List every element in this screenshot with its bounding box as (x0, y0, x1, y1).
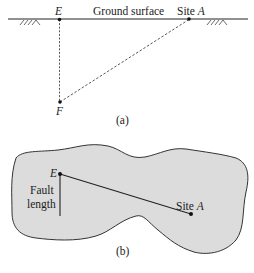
label-point-e: E (55, 6, 62, 18)
site-letter: A (197, 200, 204, 212)
diagram-canvas (0, 0, 254, 273)
label-fault-line1: Fault (30, 185, 54, 197)
caption-a: (a) (116, 115, 129, 127)
site-a-dot (187, 17, 191, 21)
label-point-e: E (50, 168, 57, 180)
hypocentral-distance-line (60, 20, 189, 103)
site-letter: A (198, 5, 205, 17)
site-prefix: Site (177, 5, 198, 17)
label-ground-surface: Ground surface (93, 6, 164, 18)
point-e-dot (58, 18, 62, 22)
ground-hatch-left-icon (20, 20, 40, 25)
label-site-a: Site A (176, 201, 204, 213)
label-fault-line2: length (27, 199, 56, 211)
label-point-f: F (56, 106, 63, 118)
label-site-a: Site A (177, 6, 205, 18)
ground-hatch-right-icon (207, 20, 227, 25)
site-a-dot (189, 212, 193, 216)
site-prefix: Site (176, 200, 197, 212)
panel-a (8, 17, 248, 104)
caption-b: (b) (116, 246, 129, 258)
point-e-dot (58, 172, 62, 176)
point-f-dot (58, 100, 62, 104)
